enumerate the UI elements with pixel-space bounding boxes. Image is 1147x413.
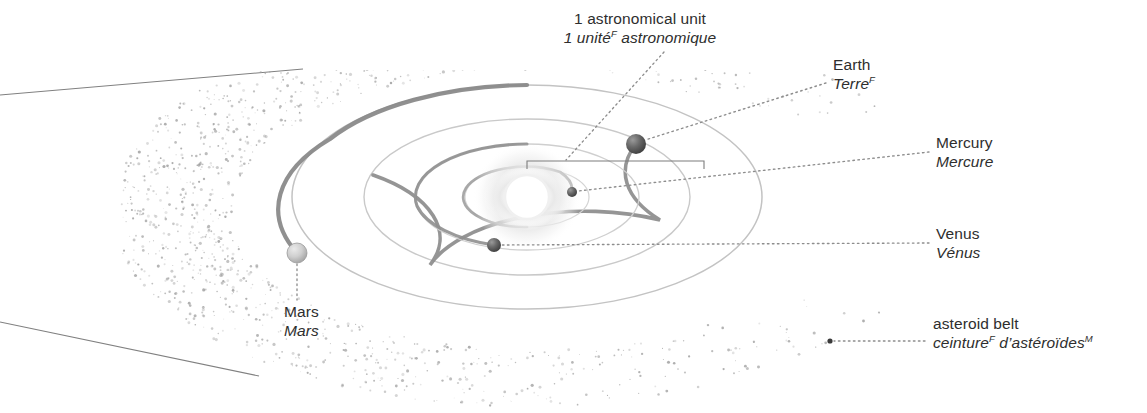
- asteroid-speck: [827, 112, 829, 114]
- asteroid-speck: [249, 159, 251, 161]
- asteroid-speck: [227, 151, 229, 153]
- asteroid-speck: [130, 196, 132, 198]
- asteroid-speck: [613, 57, 615, 59]
- asteroid-speck: [210, 213, 211, 214]
- asteroid-speck: [355, 343, 357, 345]
- asteroid-speck: [197, 222, 198, 223]
- asteroid-speck: [446, 346, 448, 348]
- asteroid-speck: [112, 224, 114, 226]
- asteroid-speck: [746, 367, 749, 370]
- asteroid-speck: [125, 187, 126, 188]
- asteroid-speck: [727, 349, 730, 352]
- asteroid-speck: [211, 253, 213, 255]
- asteroid-speck: [378, 378, 379, 379]
- asteroid-speck: [744, 365, 747, 368]
- asteroid-speck: [214, 94, 215, 95]
- asteroid-speck: [596, 57, 598, 59]
- asteroid-speck: [503, 391, 506, 394]
- asteroid-speck: [192, 192, 194, 194]
- asteroid-speck: [248, 314, 250, 316]
- asteroid-speck: [201, 166, 203, 168]
- asteroid-speck: [561, 362, 564, 365]
- label-earth-en: Earth: [833, 56, 875, 74]
- asteroid-speck: [225, 304, 227, 306]
- asteroid-speck: [343, 33, 345, 35]
- asteroid-speck: [125, 210, 127, 212]
- asteroid-speck: [409, 79, 411, 81]
- asteroid-speck: [462, 367, 465, 370]
- asteroid-speck: [490, 402, 493, 405]
- asteroid-speck: [291, 294, 293, 296]
- asteroid-speck: [378, 37, 379, 38]
- asteroid-speck: [865, 111, 867, 113]
- asteroid-speck: [280, 55, 281, 56]
- asteroid-speck: [423, 348, 426, 351]
- planet-mars: [287, 243, 307, 263]
- asteroid-speck: [559, 372, 560, 373]
- asteroid-speck: [884, 118, 886, 120]
- asteroid-speck: [596, 351, 597, 352]
- asteroid-speck: [125, 162, 128, 165]
- asteroid-speck: [242, 259, 243, 260]
- asteroid-speck: [414, 343, 416, 345]
- asteroid-speck: [184, 123, 186, 125]
- asteroid-speck: [205, 114, 206, 115]
- asteroid-speck: [347, 322, 350, 325]
- asteroid-speck: [430, 23, 432, 25]
- asteroid-speck: [193, 232, 194, 233]
- asteroid-speck: [543, 68, 544, 69]
- asteroid-speck: [478, 358, 479, 359]
- asteroid-speck: [113, 194, 116, 197]
- asteroid-speck: [136, 275, 137, 276]
- asteroid-speck: [300, 81, 303, 84]
- asteroid-speck: [462, 389, 463, 390]
- asteroid-speck: [467, 48, 470, 51]
- asteroid-speck: [132, 217, 134, 219]
- asteroid-speck: [127, 181, 129, 183]
- asteroid-speck: [153, 240, 154, 241]
- asteroid-speck: [205, 135, 207, 137]
- asteroid-speck: [735, 347, 738, 350]
- asteroid-speck: [159, 250, 160, 251]
- asteroid-speck: [260, 71, 262, 73]
- asteroid-speck: [205, 204, 208, 207]
- asteroid-speck: [226, 260, 229, 263]
- asteroid-speck: [515, 362, 516, 363]
- asteroid-speck: [575, 54, 576, 55]
- asteroid-speck: [415, 398, 416, 399]
- asteroid-speck: [607, 395, 608, 396]
- asteroid-speck: [165, 115, 166, 116]
- asteroid-speck: [202, 250, 203, 251]
- asteroid-speck: [262, 76, 264, 78]
- asteroid-speck: [157, 172, 159, 174]
- label-earth-fr: TerreF: [833, 74, 875, 93]
- asteroid-speck: [169, 188, 170, 189]
- asteroid-speck: [227, 255, 229, 257]
- asteroid-speck: [426, 26, 428, 28]
- asteroid-speck: [219, 214, 221, 216]
- asteroid-speck: [290, 363, 293, 366]
- asteroid-speck: [246, 142, 249, 145]
- asteroid-speck: [391, 351, 392, 352]
- asteroid-speck: [526, 357, 529, 360]
- asteroid-speck: [295, 76, 298, 79]
- asteroid-speck: [121, 203, 123, 205]
- asteroid-speck: [730, 349, 732, 351]
- asteroid-speck: [133, 187, 135, 189]
- asteroid-speck: [336, 92, 339, 95]
- asteroid-speck: [395, 61, 397, 63]
- asteroid-speck: [758, 323, 760, 325]
- asteroid-speck: [569, 59, 570, 60]
- asteroid-speck: [354, 359, 357, 362]
- asteroid-speck: [599, 364, 601, 366]
- asteroid-speck: [365, 68, 368, 71]
- asteroid-speck: [248, 273, 251, 276]
- asteroid-speck: [256, 83, 259, 86]
- asteroid-speck: [677, 368, 679, 370]
- asteroid-speck: [442, 70, 445, 73]
- asteroid-speck: [346, 48, 348, 50]
- asteroid-speck: [426, 370, 428, 372]
- asteroid-speck: [149, 241, 150, 242]
- asteroid-speck: [325, 63, 327, 65]
- asteroid-speck: [257, 109, 258, 110]
